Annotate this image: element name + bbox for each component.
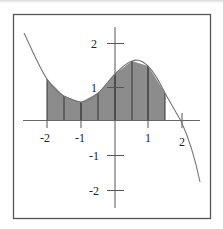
- x-tick-label-neg1: -1: [75, 131, 85, 145]
- chart-canvas: -2 -1 1 2 2 1 -1 -2: [0, 0, 223, 229]
- y-tick-label-neg1: -1: [89, 149, 99, 163]
- x-tick-label-1: 1: [145, 131, 151, 145]
- y-tick-label-neg2: -2: [89, 184, 99, 198]
- y-tick-label-1: 1: [91, 81, 97, 95]
- x-tick-label-neg2: -2: [40, 131, 50, 145]
- y-tick-label-2: 2: [91, 37, 97, 51]
- x-tick-label-2: 2: [179, 135, 185, 149]
